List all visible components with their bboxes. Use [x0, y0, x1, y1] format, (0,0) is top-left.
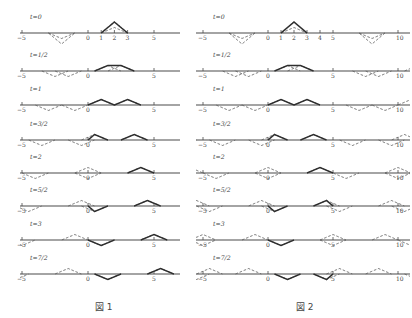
- tick-label: −5: [198, 207, 207, 214]
- solution-curve: [128, 168, 155, 173]
- solution-curve: [268, 240, 294, 246]
- tick-label: 2: [292, 34, 296, 41]
- tick-label: −5: [198, 34, 207, 41]
- traveling-half-wave: [20, 269, 81, 278]
- tick-label: 0: [86, 106, 90, 113]
- time-label: t=0: [30, 13, 42, 20]
- tick-label: −5: [17, 207, 26, 214]
- wave-reflection-diagram: −501235t=0−505t=1/2−505t=1−505t=3/2−505t…: [0, 0, 412, 318]
- solution-curve: [88, 100, 141, 105]
- figure-2-caption: 図 2: [296, 300, 314, 313]
- tick-label: 5: [152, 275, 156, 282]
- tick-label: 10: [396, 72, 404, 79]
- frame-t-3: −50510t=3: [196, 220, 410, 248]
- time-label: t=2: [213, 153, 225, 160]
- tick-label: 0: [86, 72, 90, 79]
- frame-t-0: −501234510t=0: [196, 13, 410, 44]
- solution-curve: [275, 274, 334, 280]
- tick-label: −5: [198, 141, 207, 148]
- time-label: t=2: [30, 153, 42, 160]
- figure-1-caption: 図 1: [95, 300, 113, 313]
- tick-label: 3: [126, 34, 130, 41]
- figure-2: −501234510t=0−50510t=1/2−50510t=1−50510t…: [196, 13, 410, 282]
- time-label: t=3/2: [30, 120, 48, 127]
- tick-label: 0: [266, 106, 270, 113]
- time-label: t=5/2: [213, 186, 231, 193]
- tick-label: −5: [198, 174, 207, 181]
- frame-t-1-2: −505t=1/2: [17, 51, 180, 79]
- tick-label: 5: [331, 174, 335, 181]
- tick-label: 10: [396, 275, 404, 282]
- time-label: t=1/2: [213, 51, 231, 58]
- time-label: t=1: [213, 85, 225, 92]
- tick-label: 5: [331, 141, 335, 148]
- frame-t-7-2: −50510t=7/2: [196, 254, 410, 282]
- frame-t-3-2: −50510t=3/2: [196, 120, 410, 148]
- frame-t-3: −505t=3: [17, 220, 180, 248]
- tick-label: 5: [152, 72, 156, 79]
- tick-label: 5: [331, 34, 335, 41]
- tick-label: 5: [152, 34, 156, 41]
- tick-label: 10: [396, 106, 404, 113]
- frame-t-2: −50510t=2: [196, 153, 410, 181]
- tick-label: 3: [305, 34, 309, 41]
- time-label: t=1: [30, 85, 42, 92]
- frame-t-5-2: −505t=5/2: [17, 186, 180, 214]
- tick-label: 5: [152, 141, 156, 148]
- solution-curve: [307, 168, 333, 174]
- tick-label: 5: [152, 174, 156, 181]
- tick-label: −5: [17, 72, 26, 79]
- tick-label: 0: [266, 275, 270, 282]
- frame-t-1: −505t=1: [17, 85, 180, 113]
- tick-label: 0: [86, 241, 90, 248]
- frame-t-1-2: −50510t=1/2: [196, 51, 410, 79]
- time-label: t=0: [213, 13, 225, 20]
- tick-label: 0: [86, 174, 90, 181]
- tick-label: −5: [17, 141, 26, 148]
- tick-label: 0: [86, 34, 90, 41]
- time-label: t=3: [213, 220, 225, 227]
- tick-label: −5: [17, 106, 26, 113]
- frame-t-5-2: −50510t=5/2: [196, 186, 410, 214]
- frame-t-3-2: −505t=3/2: [17, 120, 180, 148]
- frame-t-0: −501235t=0: [17, 13, 180, 44]
- tick-label: −5: [17, 34, 26, 41]
- tick-label: −5: [198, 106, 207, 113]
- figure-1: −501235t=0−505t=1/2−505t=1−505t=3/2−505t…: [17, 13, 180, 282]
- time-label: t=3/2: [213, 120, 231, 127]
- tick-label: 0: [86, 275, 90, 282]
- time-label: t=7/2: [213, 254, 231, 261]
- tick-label: −5: [198, 72, 207, 79]
- time-label: t=7/2: [30, 254, 48, 261]
- tick-label: 10: [396, 34, 404, 41]
- tick-label: 5: [331, 106, 335, 113]
- tick-label: 5: [152, 106, 156, 113]
- tick-label: 0: [266, 34, 270, 41]
- tick-label: 0: [266, 72, 270, 79]
- tick-label: −5: [17, 174, 26, 181]
- tick-label: 2: [112, 34, 116, 41]
- solution-curve: [268, 100, 320, 106]
- time-label: t=3: [30, 220, 42, 227]
- tick-label: 0: [266, 241, 270, 248]
- solution-curve: [268, 135, 327, 141]
- tick-label: 1: [99, 34, 103, 41]
- tick-label: 5: [152, 241, 156, 248]
- time-label: t=1/2: [30, 51, 48, 58]
- frame-t-7-2: −505t=7/2: [17, 254, 180, 282]
- frame-t-1: −50510t=1: [196, 85, 410, 113]
- frame-t-2: −505t=2: [17, 153, 180, 181]
- tick-label: 10: [396, 174, 404, 181]
- tick-label: 4: [318, 34, 322, 41]
- solution-curve: [88, 135, 147, 140]
- tick-label: 5: [331, 72, 335, 79]
- tick-label: 5: [152, 207, 156, 214]
- time-label: t=5/2: [30, 186, 48, 193]
- tick-label: 1: [279, 34, 283, 41]
